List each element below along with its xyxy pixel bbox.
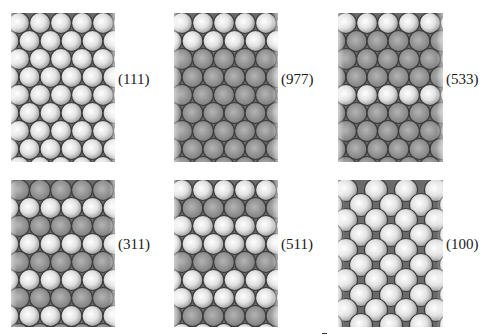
label-311: (311) [118, 237, 150, 252]
tick-mark [322, 333, 327, 334]
label-977: (977) [281, 72, 314, 87]
label-511: (511) [281, 237, 313, 252]
label-533: (533) [446, 72, 479, 87]
panel-977 [174, 13, 278, 162]
panel-111 [11, 13, 115, 162]
panel-100 [338, 180, 443, 327]
panel-511 [174, 180, 278, 327]
label-100: (100) [446, 237, 479, 252]
panel-311 [11, 180, 115, 327]
panel-533 [338, 13, 443, 162]
label-111: (111) [118, 72, 149, 87]
